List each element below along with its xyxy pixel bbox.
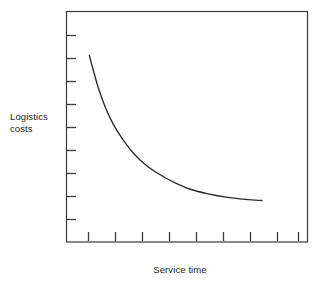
logistics-cost-curve bbox=[89, 55, 262, 200]
x-axis-ticks bbox=[89, 232, 299, 241]
chart-canvas bbox=[0, 0, 314, 287]
chart-figure: Logistics costs Service time bbox=[0, 0, 314, 287]
x-axis-label: Service time bbox=[110, 264, 250, 276]
y-axis-ticks bbox=[67, 36, 76, 220]
y-axis-label: Logistics costs bbox=[10, 111, 64, 134]
plot-frame bbox=[67, 12, 308, 243]
